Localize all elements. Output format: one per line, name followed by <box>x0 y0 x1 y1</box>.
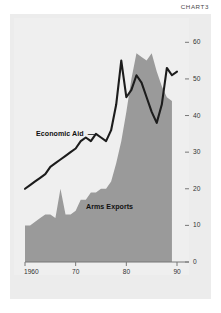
x-axis-tick-label: 80 <box>123 268 130 275</box>
leader-line-dash: — <box>86 130 95 138</box>
plot-area <box>14 18 189 275</box>
chart-number-label: CHART3 <box>181 3 209 10</box>
x-axis-tick-label: 70 <box>72 268 79 275</box>
y-axis-tick-label: 30 <box>193 148 200 155</box>
y-axis-tick-label: 40 <box>193 112 200 119</box>
y-axis-tick-label: 0 <box>193 258 197 265</box>
series-label-economic-aid: Economic Aid — <box>36 130 95 138</box>
series-label-arms-exports: Arms Exports <box>86 203 133 211</box>
plot-svg <box>14 18 189 275</box>
chart-figure: CHART3 World Arms Exports and Foreign Ec… <box>0 0 221 313</box>
series-label-economic-aid-text: Economic Aid <box>36 130 84 138</box>
y-axis-tick-label: 20 <box>193 185 200 192</box>
y-axis-tick-label: 10 <box>193 221 200 228</box>
x-axis-tick-label: 1960 <box>24 268 39 275</box>
y-axis-tick-label: 50 <box>193 75 200 82</box>
y-axis-tick-label: 60 <box>193 38 200 45</box>
x-axis-tick-label: 90 <box>173 268 180 275</box>
